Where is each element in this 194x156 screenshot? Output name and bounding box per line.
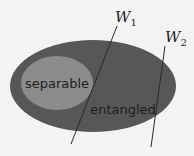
separable-label: separable: [25, 76, 89, 91]
entangled-label: entangled: [90, 102, 156, 117]
witness-2-label: W2: [165, 28, 187, 48]
witness-1-label: W1: [115, 8, 137, 28]
diagram-canvas: separable entangled W1 W2: [0, 0, 194, 156]
entanglement-diagram: separable entangled W1 W2: [0, 0, 194, 156]
